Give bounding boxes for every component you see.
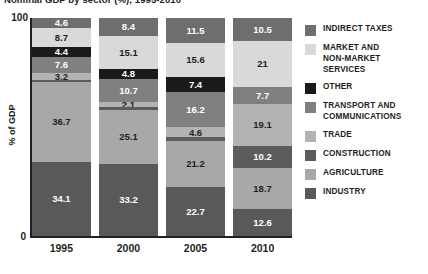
bar-segment: 8.4: [99, 18, 158, 36]
legend-item[interactable]: TRANSPORT AND COMMUNICATIONS: [305, 101, 425, 123]
bar-segment: 4.4: [32, 47, 91, 57]
legend-label: TRADE: [323, 130, 352, 141]
x-axis-line: [30, 236, 292, 238]
legend-item[interactable]: INDUSTRY: [305, 187, 425, 199]
bar-segment: 10.7: [99, 79, 158, 102]
legend-label: TRANSPORT AND COMMUNICATIONS: [323, 101, 401, 123]
bar-segment: 4.6: [32, 18, 91, 28]
legend-label: INDUSTRY: [323, 187, 366, 198]
chart-title: Nominal GDP by sector (%), 1995-2010: [4, 0, 181, 5]
x-tick-label-1995: 1995: [32, 242, 91, 254]
legend-swatch-icon: [305, 150, 316, 161]
legend-swatch-icon: [305, 25, 316, 36]
bar-column-1995: 4.68.74.47.63.236.734.1: [32, 18, 91, 236]
bar-segment: 8.7: [32, 28, 91, 47]
x-tick-label-2005: 2005: [166, 242, 225, 254]
legend-swatch-icon: [305, 44, 316, 55]
x-tick-label-2010: 2010: [233, 242, 292, 254]
bar-segment: 16.2: [166, 92, 225, 127]
bar-segment: 10.2: [233, 146, 292, 168]
legend-label: INDIRECT TAXES: [323, 24, 393, 35]
bar-segment: 7.6: [32, 57, 91, 74]
legend-item[interactable]: OTHER: [305, 82, 425, 94]
bar-column-2010: 10.5217.719.110.218.712.6: [233, 18, 292, 236]
bar-segment: 4.6: [166, 127, 225, 137]
bar-segment: 15.6: [166, 43, 225, 77]
chart-legend: INDIRECT TAXESMARKET AND NON-MARKET SERV…: [305, 24, 425, 206]
y-tick-100: 100: [2, 12, 28, 23]
legend-item[interactable]: TRADE: [305, 130, 425, 142]
bar-column-2000: 8.415.14.810.72.125.133.2: [99, 18, 158, 236]
legend-label: CONSTRUCTION: [323, 149, 391, 160]
x-axis-tick-labels: 1995200020052010: [32, 242, 292, 254]
bar-segment: 12.6: [233, 209, 292, 236]
legend-swatch-icon: [305, 83, 316, 94]
bar-segment: 7.7: [233, 87, 292, 104]
x-tick-label-2000: 2000: [99, 242, 158, 254]
bar-segment: 10.5: [233, 18, 292, 41]
legend-label: MARKET AND NON-MARKET SERVICES: [323, 43, 380, 75]
legend-item[interactable]: INDIRECT TAXES: [305, 24, 425, 36]
legend-swatch-icon: [305, 188, 316, 199]
legend-swatch-icon: [305, 169, 316, 180]
bar-segment: 22.7: [166, 187, 225, 236]
bar-segment: 15.1: [99, 36, 158, 69]
bar-segment: 36.7: [32, 82, 91, 162]
chart-container: Nominal GDP by sector (%), 1995-2010 100…: [0, 0, 428, 274]
bar-segment: 21: [233, 41, 292, 87]
bar-segment: 4.8: [99, 69, 158, 79]
bar-segment: 3.2: [32, 73, 91, 80]
bar-segment: 7.4: [166, 77, 225, 93]
legend-item[interactable]: MARKET AND NON-MARKET SERVICES: [305, 43, 425, 75]
bar-segment: 11.5: [166, 18, 225, 43]
bar-segment: 34.1: [32, 162, 91, 236]
plot-area: 4.68.74.47.63.236.734.18.415.14.810.72.1…: [32, 18, 292, 236]
y-tick-0: 0: [12, 231, 26, 242]
legend-item[interactable]: AGRICULTURE: [305, 168, 425, 180]
bar-column-2005: 11.515.67.416.24.621.222.7: [166, 18, 225, 236]
legend-item[interactable]: CONSTRUCTION: [305, 149, 425, 161]
legend-label: AGRICULTURE: [323, 168, 384, 179]
bar-segment: 25.1: [99, 110, 158, 164]
legend-swatch-icon: [305, 102, 316, 113]
bar-segment: 21.2: [166, 141, 225, 187]
bar-segment: 19.1: [233, 104, 292, 146]
legend-label: OTHER: [323, 82, 352, 93]
bar-segment: 33.2: [99, 164, 158, 236]
y-axis-label: % of GDP: [7, 93, 17, 157]
legend-swatch-icon: [305, 131, 316, 142]
bar-segment: 18.7: [233, 168, 292, 209]
